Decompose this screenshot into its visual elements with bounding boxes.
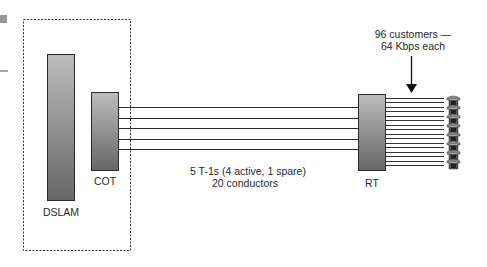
telephone-icon xyxy=(447,132,460,142)
telephone-icon xyxy=(447,105,460,115)
cot-label: COT xyxy=(87,175,123,187)
cot-box xyxy=(92,93,119,171)
trunk-label-line2: 20 conductors xyxy=(190,177,300,189)
telephone-icon xyxy=(447,114,460,124)
dslam-label: DSLAM xyxy=(38,206,84,218)
corner-mark xyxy=(0,15,7,23)
telephone-icon xyxy=(447,123,460,133)
telephone-icon xyxy=(447,159,460,169)
customers-label: 96 customers — 64 Kbps each xyxy=(370,28,456,52)
t1-trunk-lines xyxy=(118,108,358,150)
rt-label: RT xyxy=(362,177,382,189)
telephone-icon-stack xyxy=(447,96,460,169)
telephone-icon xyxy=(447,96,460,106)
trunk-label: 5 T-1s (4 active, 1 spare) 20 conductors xyxy=(190,165,300,189)
telephone-icon xyxy=(447,150,460,160)
dslam-box xyxy=(48,55,75,201)
telephone-icon xyxy=(447,141,460,151)
customers-label-line2: 64 Kbps each xyxy=(370,40,456,52)
customers-label-line1: 96 customers — xyxy=(370,28,456,40)
rt-box xyxy=(359,95,386,171)
customer-drop-lines xyxy=(385,99,444,166)
arrow-down-icon xyxy=(406,56,417,93)
trunk-label-line1: 5 T-1s (4 active, 1 spare) xyxy=(190,165,300,177)
